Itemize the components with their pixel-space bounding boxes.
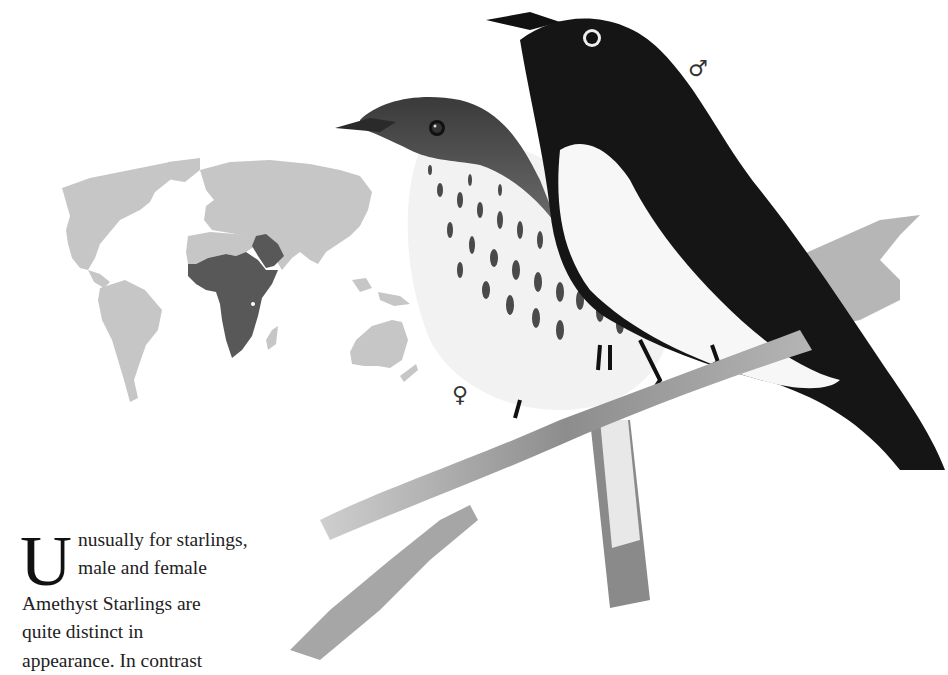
text-line: appearance. In contrast — [22, 647, 322, 675]
starling-illustration — [280, 0, 948, 670]
drop-cap: U — [20, 532, 72, 590]
text-line: quite distinct in — [22, 618, 322, 646]
body-text: U nusually for starlings, male and femal… — [22, 526, 322, 675]
male-symbol-icon: ♂ — [688, 58, 708, 80]
female-symbol-icon: ♀ — [452, 384, 468, 406]
text-line: Amethyst Starlings are — [22, 590, 322, 618]
